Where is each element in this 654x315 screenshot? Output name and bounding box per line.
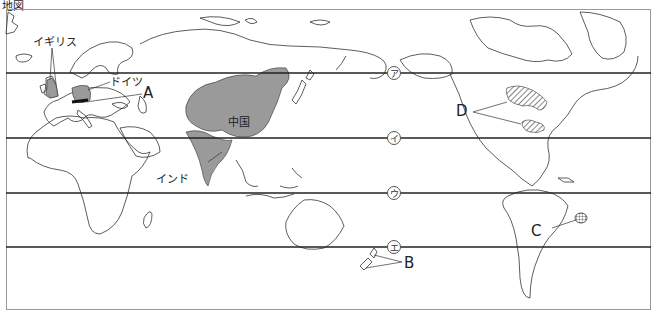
label-marker-c: C	[531, 224, 541, 239]
india-shape	[186, 131, 232, 186]
latitude-label-u: ウ	[387, 186, 401, 200]
label-germany: ドイツ	[110, 77, 143, 88]
latitude-label-a: ア	[387, 66, 401, 80]
label-uk: イギリス	[33, 37, 77, 48]
greenland	[580, 12, 626, 59]
label-marker-a: A	[143, 86, 153, 101]
c-region	[575, 213, 587, 223]
latitude-lines	[6, 73, 651, 247]
d-region-south	[522, 120, 544, 133]
uk-shape	[46, 78, 58, 98]
label-marker-d: D	[456, 104, 468, 119]
marker-a-region	[72, 100, 88, 102]
iceland	[16, 54, 32, 62]
latitude-label-i: イ	[387, 131, 401, 145]
label-india: インド	[156, 174, 189, 185]
shaded-countries	[46, 68, 289, 186]
label-marker-b: B	[404, 256, 414, 271]
australia	[286, 200, 344, 250]
greenland-edge	[6, 12, 18, 34]
latitude-label-e: エ	[387, 240, 401, 254]
coastlines	[6, 12, 638, 298]
world-map	[0, 0, 654, 315]
label-china: 中国	[228, 117, 250, 128]
d-region-north	[506, 86, 547, 110]
